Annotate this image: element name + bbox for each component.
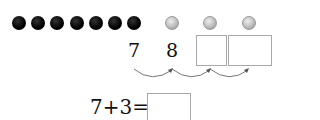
hop-arrow-2: [172, 69, 210, 77]
equation-expression: 7+3=: [90, 96, 149, 118]
answer-box[interactable]: [147, 93, 191, 120]
hop-arrow-1: [134, 69, 172, 77]
hop-arrow-3: [210, 69, 248, 77]
